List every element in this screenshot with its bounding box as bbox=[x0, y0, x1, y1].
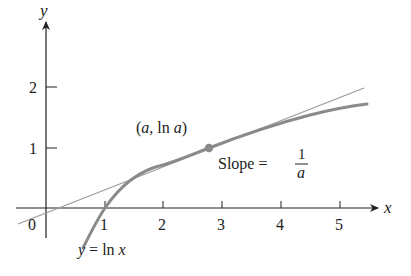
slope-annotation: Slope = bbox=[218, 155, 267, 173]
y-axis-label: y bbox=[38, 1, 48, 20]
x-ticks bbox=[105, 201, 340, 208]
y-tick-label-2: 2 bbox=[29, 79, 37, 96]
ln-curve bbox=[83, 104, 367, 248]
x-tick-label-2: 2 bbox=[158, 216, 166, 233]
x-tick-label-1: 1 bbox=[100, 216, 108, 233]
tangency-point bbox=[205, 144, 213, 152]
slope-numerator: 1 bbox=[298, 146, 306, 162]
chart-svg: y x 0 1 2 3 4 5 1 2 (a, ln a) Slope = 1 … bbox=[0, 0, 411, 276]
x-axis-label: x bbox=[383, 198, 392, 217]
y-ticks bbox=[46, 87, 57, 148]
slope-denominator: a bbox=[297, 164, 305, 181]
x-tick-label-4: 4 bbox=[276, 216, 284, 233]
x-tick-label-5: 5 bbox=[335, 216, 343, 233]
ln-tangent-figure: y x 0 1 2 3 4 5 1 2 (a, ln a) Slope = 1 … bbox=[0, 0, 411, 276]
y-tick-label-1: 1 bbox=[29, 140, 37, 157]
x-tick-label-3: 3 bbox=[217, 216, 225, 233]
origin-label: 0 bbox=[28, 216, 36, 233]
point-annotation: (a, ln a) bbox=[136, 119, 187, 137]
curve-label: y = ln x bbox=[76, 241, 126, 259]
